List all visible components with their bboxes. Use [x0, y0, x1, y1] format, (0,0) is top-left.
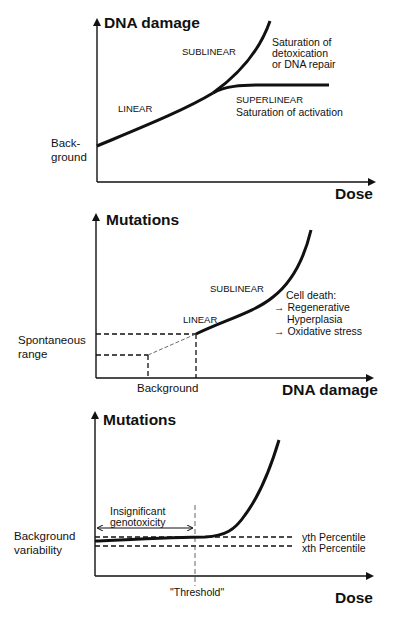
panel1-x-axis-label: Dose: [335, 185, 373, 202]
spontaneous-range-label-1: Spontaneous: [18, 334, 86, 347]
panel2-sublinear-label: SUBLINEAR: [210, 283, 264, 295]
extrapolation-line: [148, 334, 196, 355]
panel1-sublinear-label: SUBLINEAR: [182, 46, 236, 58]
panel1-superlinear-note: Saturation of activation: [236, 106, 343, 118]
background-variability-label-2: variability: [14, 544, 62, 557]
hyperplasia-label: Hyperplasia: [287, 313, 342, 325]
insignificant-label-2: genotoxicity: [110, 516, 165, 528]
regenerative-label: → Regenerative: [274, 301, 350, 313]
linear-curve: [97, 93, 213, 146]
panel1-sublinear-note-3: or DNA repair: [272, 58, 336, 70]
panel3-y-axis-label: Mutations: [103, 411, 176, 428]
panel2-y-axis-label: Mutations: [106, 211, 179, 228]
panel2-x-axis-label: DNA damage: [282, 381, 378, 398]
oxidative-stress-label: → Oxidative stress: [274, 325, 362, 337]
cell-death-label: Cell death:: [286, 289, 336, 301]
threshold-label: "Threshold": [170, 586, 224, 598]
panel1-linear-label: LINEAR: [118, 103, 152, 115]
panel2-background-label: Background: [137, 382, 198, 395]
panel1-superlinear-label: SUPERLINEAR: [236, 94, 303, 106]
spontaneous-range-label-2: range: [18, 348, 47, 361]
background-variability-label-1: Background: [14, 530, 75, 543]
panel1-y-axis-label: DNA damage: [104, 14, 200, 31]
panel1-background-label-2: ground: [51, 151, 87, 164]
xth-percentile-label: xth Percentile: [302, 542, 366, 554]
panel2-linear-label: LINEAR: [183, 314, 217, 326]
panel3-x-axis-label: Dose: [335, 589, 373, 606]
panel1-background-label-1: Back-: [51, 137, 80, 150]
superlinear-curve: [213, 85, 329, 93]
